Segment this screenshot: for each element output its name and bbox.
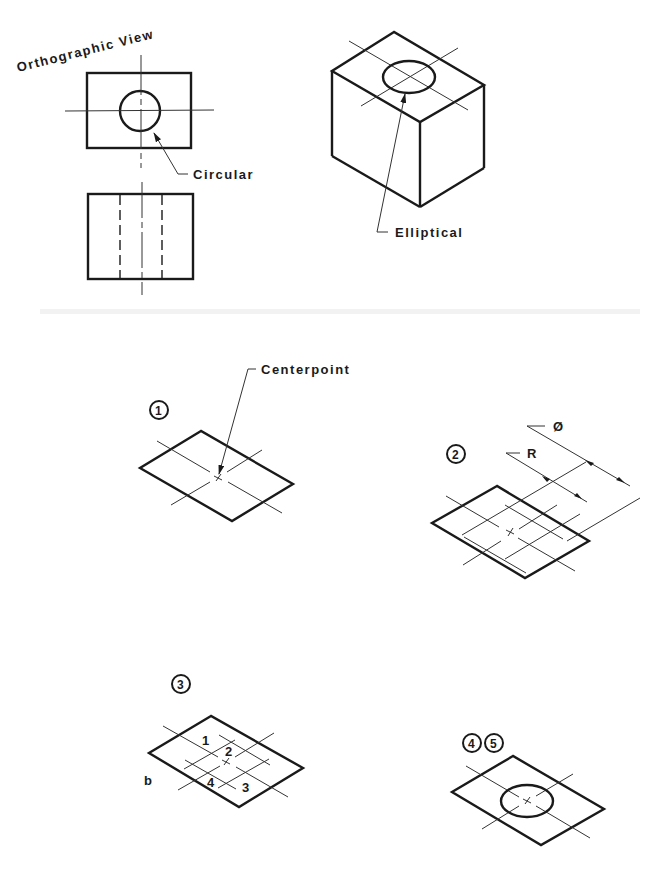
orthographic-view: Orthographic View Circular [15,26,254,295]
step-4-5: 4 5 [452,734,604,845]
cube-centerline-a [349,41,468,110]
step-2-offset-a1 [464,537,526,573]
step-1-centerline-b1 [171,482,210,505]
cube-top-face [332,32,484,122]
cube-edge-bottom-right [420,168,484,207]
step-1-centerline-b2 [227,450,262,472]
front-view-rect [88,194,193,279]
elliptical-leader [377,94,405,232]
arc-number-4: 4 [207,775,215,790]
arc-number-1: 1 [202,733,209,748]
isometric-circle-construction-diagram: Orthographic View Circular Elliptical 1 [0,0,666,880]
step-2-marker: 2 [452,448,459,462]
diameter-dimension-line [527,426,630,486]
step-1-marker: 1 [155,404,162,418]
step-1-centerline-a1 [157,441,210,472]
step-1: 1 Centerpoint [140,362,350,521]
isometric-cube: Elliptical [332,32,484,240]
centerpoint-label: Centerpoint [261,362,350,377]
step-2-extension-line [567,498,640,541]
step-4-5-centerline-a1 [466,766,519,797]
step-2-offset-b1 [462,462,586,535]
step-2: 2 R Ø [432,419,640,578]
elliptical-label: Elliptical [395,225,463,240]
centerpoint-leader [219,369,248,474]
step-4-5-centerline-b1 [482,806,519,829]
step-5-marker: 5 [490,737,497,751]
step-3-marker: 3 [177,678,184,692]
radius-dimension-line [506,453,587,502]
orthographic-view-title: Orthographic View [15,26,155,75]
cube-edge-bottom-left [332,156,420,207]
radius-label: R [527,446,538,461]
circular-leader [154,133,178,174]
side-label-b: b [144,773,152,788]
diameter-label: Ø [553,419,565,434]
step-4-marker: 4 [468,737,475,751]
step-2-center-cross-b [508,528,513,536]
arc-number-3: 3 [242,780,249,795]
radius-arrowheads [542,476,582,499]
step-4-5-centerline-b2 [536,774,573,796]
step-3-centerline-b2 [235,733,274,757]
step-3: 3 1 2 3 4 b [144,675,303,807]
arc-number-2: 2 [225,744,232,759]
circular-label: Circular [193,167,254,182]
scan-artifact [40,309,640,314]
step-3-centerline-a1 [163,726,218,757]
